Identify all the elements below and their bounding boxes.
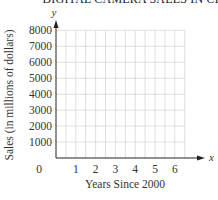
x-tick-label: 5: [152, 163, 158, 175]
grid: [56, 30, 185, 158]
y-tick-labels: 10002000300040005000600070008000: [29, 24, 52, 148]
x-tick-label: 4: [132, 163, 138, 175]
x-axis-arrow-icon: [197, 156, 205, 161]
y-tick-label: 4000: [29, 88, 52, 100]
x-axis-label: Years Since 2000: [85, 178, 165, 190]
y-tick-label: 1000: [29, 136, 52, 148]
x-tick-label: 6: [172, 163, 178, 175]
y-tick-label: 3000: [29, 104, 52, 116]
y-tick-label: 6000: [29, 56, 52, 68]
y-tick-label: 8000: [29, 24, 52, 36]
y-tick-label: 7000: [29, 40, 52, 52]
chart-plot: y x 10002000300040005000600070008000 012…: [0, 0, 218, 200]
x-tick-labels: 0123456: [36, 163, 178, 175]
x-axis-var: x: [208, 151, 214, 163]
x-tick-label: 2: [93, 163, 99, 175]
y-axis-var: y: [51, 6, 57, 18]
y-tick-label: 2000: [29, 120, 52, 132]
x-tick-label: 1: [73, 163, 79, 175]
x-tick-label: 0: [36, 163, 42, 175]
x-tick-label: 3: [113, 163, 119, 175]
y-tick-label: 5000: [29, 72, 52, 84]
y-axis-arrow-icon: [54, 20, 59, 28]
y-axis-label: Sales (in millions of dollars): [3, 29, 16, 160]
